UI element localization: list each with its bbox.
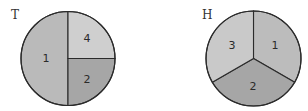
spinner-h-sector-label: 2 (250, 80, 257, 93)
spinner-t-sector-label: 2 (84, 73, 91, 86)
spinner-h-label: H (202, 8, 212, 22)
spinner-t-sector-label: 4 (84, 32, 91, 45)
spinner-t: T 1 4 2 (11, 8, 115, 106)
spinner-h-sector-label: 1 (272, 39, 279, 52)
spinner-t-sector-2 (68, 59, 115, 106)
spinner-t-sector-label: 1 (43, 52, 50, 65)
spinner-t-sector-4 (68, 12, 115, 59)
spinner-t-label: T (11, 8, 19, 22)
spinner-h-sector-label: 3 (229, 39, 236, 52)
spinner-h: H 1 2 3 (202, 8, 301, 106)
spinners-diagram: T 1 4 2 H 1 2 3 (0, 0, 308, 111)
